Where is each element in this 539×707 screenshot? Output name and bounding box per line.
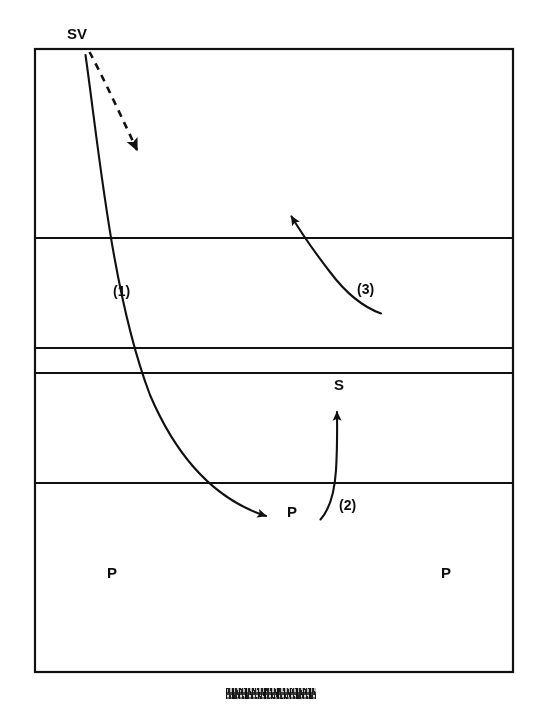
label-passer-left-p: P [107, 565, 117, 580]
label-setter-s: S [334, 377, 344, 392]
label-server-sv: SV [67, 26, 87, 41]
caption-smudge-artifact [226, 688, 316, 699]
label-step-2: (2) [339, 498, 356, 512]
volleyball-court-diagram [0, 0, 539, 707]
diagram-canvas: SV S P P P (1) (2) (3) [0, 0, 539, 707]
label-passer-right-p: P [441, 565, 451, 580]
label-passer-center-p: P [287, 504, 297, 519]
label-step-1: (1) [113, 284, 130, 298]
smudge-texture [226, 688, 316, 699]
label-step-3: (3) [357, 282, 374, 296]
